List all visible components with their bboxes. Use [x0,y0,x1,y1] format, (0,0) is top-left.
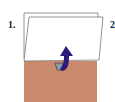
card-pocket-diagram [0,0,115,102]
